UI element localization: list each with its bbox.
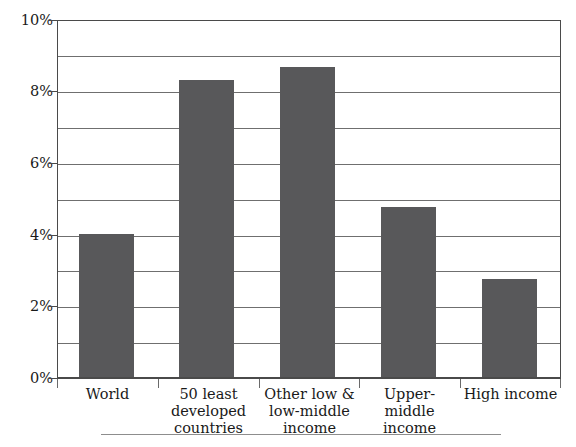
y-axis-tick [49, 163, 57, 164]
bar-upper-middle [381, 207, 436, 377]
y-axis-tick [49, 91, 57, 92]
x-axis-label-line: World [57, 386, 158, 403]
y-axis-tick [49, 235, 57, 236]
y-axis-tick-label: 4% [7, 228, 53, 243]
x-axis-label-line: Upper-middle [359, 386, 460, 420]
bar-chart-figure: 10% 8% 6% 4% 2% 0% [0, 0, 576, 447]
bar-world [79, 234, 134, 377]
bar-other-low-income [280, 67, 335, 377]
y-axis-tick [49, 306, 57, 307]
y-axis-tick-label: 6% [7, 156, 53, 171]
y-axis-tick-label: 10% [7, 13, 53, 28]
plot-area [57, 20, 561, 378]
x-axis-label-other-low-income: Other low & low-middle income [259, 386, 360, 437]
x-axis-label-upper-middle: Upper-middle income [359, 386, 460, 437]
y-axis-tick-label: 2% [7, 299, 53, 314]
x-axis-label-line: Other low & [259, 386, 360, 403]
x-axis-label-line: developed [158, 403, 259, 420]
x-axis-label-world: World [57, 386, 158, 403]
footer-rule [101, 434, 501, 435]
x-axis-label-line: High income [460, 386, 561, 403]
x-axis-line [57, 378, 561, 379]
x-axis-label-line: low-middle [259, 403, 360, 420]
x-axis-label-high-income: High income [460, 386, 561, 403]
y-axis-tick-label: 8% [7, 84, 53, 99]
gridline [58, 56, 560, 57]
y-axis-tick [49, 20, 57, 21]
x-axis-label-least-developed: 50 least developed countries [158, 386, 259, 437]
bar-least-developed [179, 80, 234, 377]
y-axis-tick [49, 378, 57, 379]
y-axis-tick-label: 0% [7, 371, 53, 386]
x-axis-label-line: 50 least [158, 386, 259, 403]
bar-high-income [482, 279, 537, 378]
